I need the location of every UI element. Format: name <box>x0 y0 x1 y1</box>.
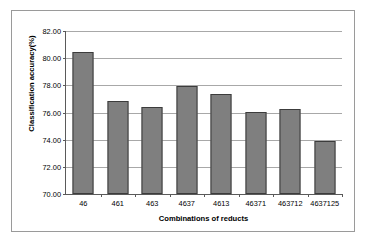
x-axis-title: Combinations of reducts <box>65 214 342 223</box>
x-tick-mark <box>239 194 240 197</box>
x-tick-label: 4637125 <box>310 199 339 208</box>
plot-area: 82.0080.0078.0076.0074.0072.0070.00 4646… <box>65 31 342 195</box>
bar <box>314 141 335 194</box>
y-tick-mark <box>63 194 66 195</box>
bar <box>107 101 128 194</box>
x-tick-label: 46 <box>79 199 87 208</box>
y-tick-label: 82.00 <box>43 27 62 36</box>
bar-group: 463712 <box>273 31 308 194</box>
bar <box>211 94 232 194</box>
x-tick-mark <box>342 194 343 197</box>
bar-group: 461 <box>101 31 136 194</box>
y-tick-label: 74.00 <box>43 135 62 144</box>
bar <box>176 86 197 194</box>
bar-group: 4613 <box>204 31 239 194</box>
bar-series: 4646146346374613463714637124637125 <box>66 31 342 194</box>
y-tick-label: 70.00 <box>43 190 62 199</box>
x-tick-mark <box>308 194 309 197</box>
y-tick-label: 78.00 <box>43 81 62 90</box>
bar-group: 4637125 <box>308 31 343 194</box>
y-tick-label: 76.00 <box>43 108 62 117</box>
chart-figure: Classification accuracy(%) 82.0080.0078.… <box>11 10 355 232</box>
x-tick-label: 463 <box>146 199 158 208</box>
bar-group: 463 <box>135 31 170 194</box>
bar-group: 46 <box>66 31 101 194</box>
x-tick-mark <box>273 194 274 197</box>
x-tick-label: 463712 <box>278 199 303 208</box>
bar <box>73 52 94 194</box>
x-tick-mark <box>204 194 205 197</box>
x-tick-mark <box>101 194 102 197</box>
x-tick-mark <box>135 194 136 197</box>
x-tick-mark <box>170 194 171 197</box>
y-axis-title: Classification accuracy(%) <box>27 19 36 149</box>
bar-group: 4637 <box>170 31 205 194</box>
x-tick-label: 46371 <box>245 199 266 208</box>
bar <box>245 112 266 194</box>
y-tick-label: 72.00 <box>43 162 62 171</box>
bar <box>142 107 163 194</box>
bar <box>280 109 301 194</box>
x-tick-label: 4637 <box>179 199 195 208</box>
x-tick-label: 461 <box>112 199 124 208</box>
bar-group: 46371 <box>239 31 274 194</box>
x-tick-label: 4613 <box>213 199 229 208</box>
y-tick-label: 80.00 <box>43 54 62 63</box>
